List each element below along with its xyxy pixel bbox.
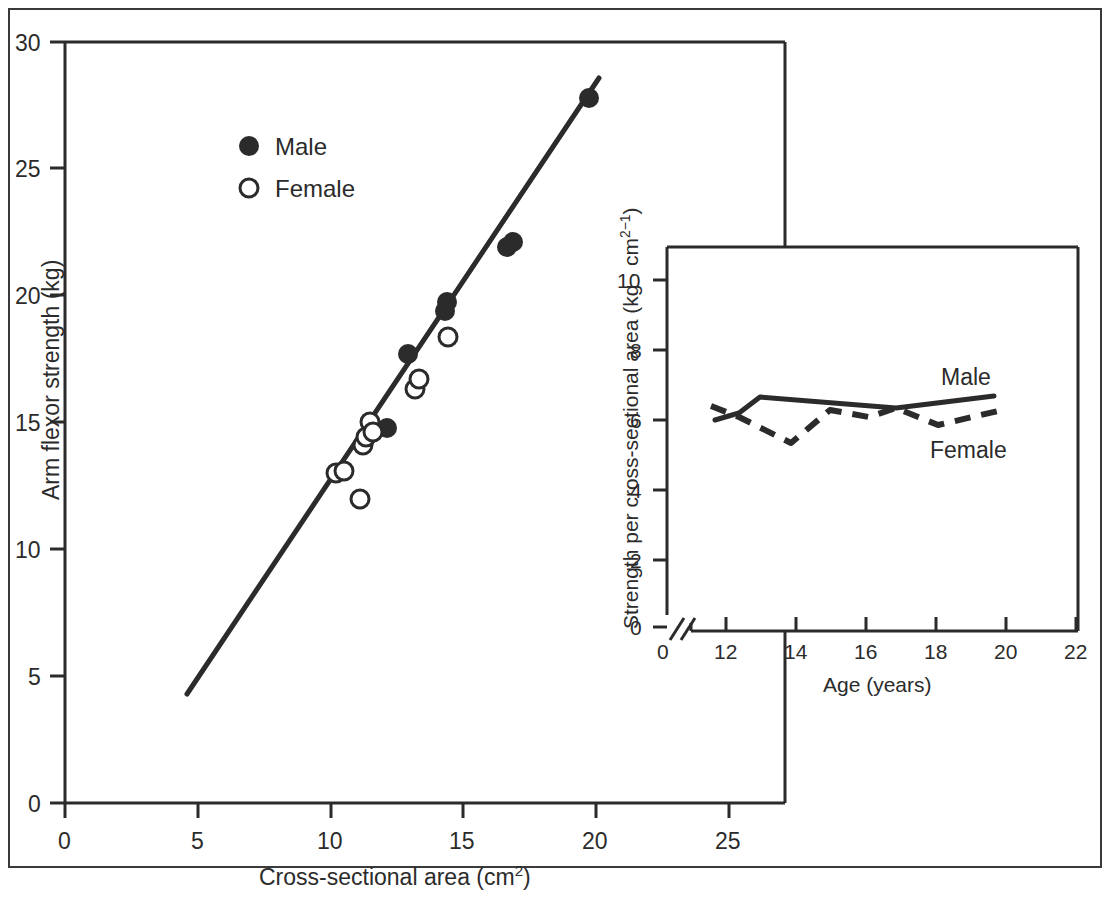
legend-label-female: Female <box>275 175 355 203</box>
main-x-axis-title: Cross-sectional area (cm2) <box>259 862 531 891</box>
inset-xtick-label-12: 12 <box>714 640 737 664</box>
main-ytick-label-20: 20 <box>15 283 41 310</box>
inset-xtick-label-20: 20 <box>994 640 1017 664</box>
figure-root: 30 25 20 15 10 5 0 0 5 10 15 20 25 Arm f… <box>0 0 1114 904</box>
scatter-point-female <box>351 490 369 508</box>
main-x-axis-title-tail: ) <box>523 864 531 890</box>
inset-xtick-label-16: 16 <box>854 640 877 664</box>
main-xtick-label-5: 5 <box>191 828 204 855</box>
main-x-axis-title-base: Cross-sectional area (cm <box>259 864 515 890</box>
inset-y-axis-title-base: Strength per cross-sectional area (kg · … <box>619 238 642 629</box>
inset-y-ticks <box>653 280 667 627</box>
inset-y-axis-title-exponent: 2−1 <box>617 215 633 239</box>
main-xtick-label-0: 0 <box>58 828 71 855</box>
inset-xtick-label-22: 22 <box>1064 640 1087 664</box>
inset-xtick-label-0: 0 <box>657 640 669 664</box>
main-xtick-label-15: 15 <box>449 828 475 855</box>
scatter-point-female <box>439 328 457 346</box>
inset-xtick-label-14: 14 <box>784 640 807 664</box>
inset-y-axis-title-tail: ) <box>619 208 642 215</box>
inset-annotation-male: Male <box>941 364 991 391</box>
main-y-axis-title: Arm flexor strength (kg) <box>38 260 65 500</box>
scatter-point-male <box>437 292 457 312</box>
scatter-point-female <box>364 423 382 441</box>
legend-label-male: Male <box>275 133 327 161</box>
main-x-ticks <box>65 803 729 818</box>
main-x-axis-title-exponent: 2 <box>515 862 523 879</box>
scatter-point-male <box>503 232 523 252</box>
main-regression-line <box>187 78 599 694</box>
main-series-female-points <box>327 328 457 508</box>
legend-marker-female <box>240 179 258 197</box>
scatter-point-male <box>579 88 599 108</box>
inset-y-axis-title: Strength per cross-sectional area (kg · … <box>617 208 643 630</box>
main-ytick-label-15: 15 <box>15 410 41 437</box>
scatter-point-female <box>410 370 428 388</box>
main-ytick-label-0: 0 <box>28 791 41 818</box>
main-ytick-label-30: 30 <box>15 30 41 57</box>
inset-background <box>667 247 1078 631</box>
legend-marker-male <box>239 136 259 156</box>
inset-xtick-label-18: 18 <box>924 640 947 664</box>
inset-x-axis-title: Age (years) <box>823 673 932 697</box>
scatter-point-female <box>335 462 353 480</box>
main-xtick-label-10: 10 <box>317 828 343 855</box>
main-ytick-label-5: 5 <box>28 664 41 691</box>
main-xtick-label-25: 25 <box>715 828 741 855</box>
main-xtick-label-20: 20 <box>582 828 608 855</box>
main-ytick-label-10: 10 <box>15 537 41 564</box>
scatter-point-male <box>398 344 418 364</box>
main-ytick-label-25: 25 <box>15 156 41 183</box>
inset-annotation-female: Female <box>930 437 1007 464</box>
